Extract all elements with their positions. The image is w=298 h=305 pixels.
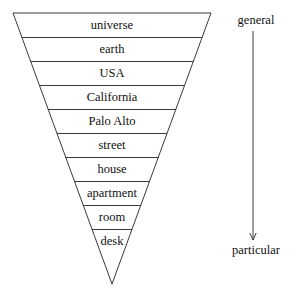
axis-label-general: general: [214, 14, 298, 27]
pyramid-level-palo-alto: Palo Alto: [0, 115, 227, 128]
pyramid-level-california: California: [0, 91, 227, 104]
pyramid-level-desk: desk: [0, 235, 227, 248]
pyramid-level-house: house: [0, 163, 227, 176]
pyramid-level-universe: universe: [0, 19, 227, 32]
pyramid-level-usa: USA: [0, 67, 227, 80]
pyramid-level-earth: earth: [0, 43, 227, 56]
diagram-page: universeearthUSACaliforniaPalo Altostree…: [0, 0, 298, 305]
general-particular-axis: general particular: [214, 0, 298, 305]
inverted-pyramid-diagram: universeearthUSACaliforniaPalo Altostree…: [0, 0, 230, 305]
pyramid-level-apartment: apartment: [0, 187, 227, 200]
pyramid-level-street: street: [0, 139, 227, 152]
pyramid-level-room: room: [0, 211, 227, 224]
down-arrow-icon: [214, 0, 298, 305]
axis-label-particular: particular: [214, 244, 298, 257]
